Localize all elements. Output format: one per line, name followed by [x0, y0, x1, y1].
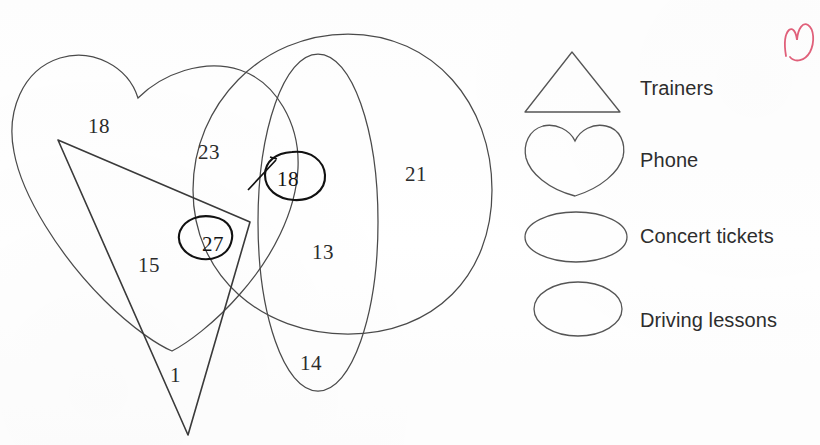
legend-label-concert-tickets: Concert tickets [640, 225, 774, 248]
heart-icon [525, 125, 624, 196]
concert-tickets-ellipse-shape [258, 54, 378, 391]
phone-heart-shape [12, 55, 298, 351]
diagram-shapes [12, 34, 492, 435]
region-value-driving-only: 21 [405, 162, 427, 187]
region-value-phone-driving-concert: 18 [277, 167, 299, 192]
red-pen-scribble [785, 24, 813, 60]
flat-ellipse-icon [525, 212, 627, 262]
region-value-phone-trainers: 15 [138, 253, 160, 278]
region-value-phone-driving: 23 [198, 140, 220, 165]
region-value-trainers-only: 1 [170, 363, 181, 388]
annotation-arrow-18 [248, 157, 277, 190]
legend-icons [525, 52, 627, 336]
region-value-concert-only: 14 [300, 351, 322, 376]
trainers-triangle-shape [58, 140, 250, 435]
driving-lessons-circle-shape [193, 34, 492, 334]
triangle-icon [525, 52, 620, 112]
region-value-phone-trainers-driving: 27 [202, 232, 224, 257]
legend-label-trainers: Trainers [640, 77, 713, 100]
venn-diagram-canvas [0, 0, 820, 445]
diagram-annotation-rings [179, 152, 325, 259]
legend-label-phone: Phone [640, 149, 698, 172]
region-value-driving-concert: 13 [312, 240, 334, 265]
round-ellipse-icon [534, 282, 622, 336]
region-value-phone-only: 18 [88, 114, 110, 139]
legend-label-driving-lessons: Driving lessons [640, 309, 777, 332]
